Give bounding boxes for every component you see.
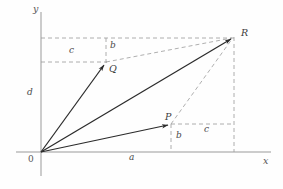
x-axis-label: x — [263, 156, 268, 166]
measure-label-b-upper: b — [110, 41, 116, 50]
origin-label: 0 — [28, 155, 34, 164]
pr-dashed-line — [171, 39, 232, 124]
point-label-q: Q — [109, 64, 117, 74]
vector-op — [41, 125, 168, 152]
measure-label-c-upper: c — [69, 46, 74, 55]
measure-label-b-lower: b — [176, 131, 182, 140]
vector-addition-figure: y x 0 Q P R b c d a b c — [0, 0, 283, 189]
vector-oq — [41, 65, 104, 152]
point-label-r: R — [241, 28, 248, 38]
measure-label-d-left: d — [27, 88, 33, 97]
measure-label-c-lower: c — [204, 125, 209, 134]
y-axis-label: y — [33, 4, 38, 14]
point-label-p: P — [165, 112, 171, 122]
measure-label-a-bottom: a — [129, 153, 134, 162]
